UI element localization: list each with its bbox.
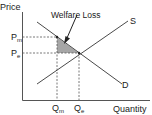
qe-label: Qe	[74, 103, 85, 114]
annotation-label: Welfare Loss	[51, 10, 100, 20]
equilibrium-point	[78, 52, 80, 54]
supply-label: S	[130, 16, 136, 26]
pe-label: Pe	[11, 48, 21, 59]
demand-label: D	[122, 80, 129, 90]
monopoly-point	[56, 36, 58, 38]
qm-label: Qm	[52, 103, 64, 114]
y-axis-label: Price	[0, 2, 21, 12]
pm-label: Pm	[11, 32, 22, 43]
welfare-loss-chart: Price Welfare Loss S D Quantity Pm Pe Qm…	[0, 0, 152, 115]
supply-curve	[37, 21, 128, 84]
x-axis-label: Quantity	[113, 104, 147, 114]
annotation-arrowhead	[64, 36, 70, 44]
